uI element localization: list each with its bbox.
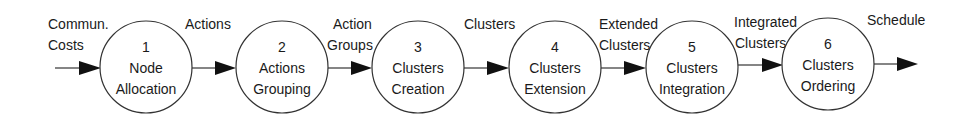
arrowhead-icon (215, 61, 236, 75)
edge-action-groups: Action Groups (327, 16, 373, 75)
arrowhead-icon (351, 61, 372, 75)
node-number: 3 (414, 39, 422, 55)
node-title-line2: Creation (392, 81, 445, 97)
node-number: 4 (551, 39, 559, 55)
node-1-node-allocation: 1 Node Allocation (100, 21, 192, 113)
process-flow-diagram: Commun. Costs 1 Node Allocation Actions … (0, 0, 963, 118)
edge-label-line2: Clusters (735, 35, 786, 51)
node-title-line2: Grouping (253, 81, 311, 97)
node-title-line2: Extension (524, 81, 585, 97)
arrowhead-icon (624, 61, 646, 75)
node-title-line1: Actions (259, 60, 305, 76)
node-4-clusters-extension: 4 Clusters Extension (509, 21, 601, 113)
node-number: 1 (142, 39, 150, 55)
node-title-line1: Clusters (529, 60, 580, 76)
arrowhead-icon (487, 61, 509, 75)
edge-label-line1: Clusters (464, 16, 515, 32)
edge-label-line2: Clusters (599, 37, 650, 53)
edge-label-line2: Groups (327, 37, 373, 53)
node-title-line2: Ordering (801, 78, 855, 94)
edge-label-line1: Action (333, 16, 372, 32)
node-number: 6 (824, 36, 832, 52)
node-2-actions-grouping: 2 Actions Grouping (236, 21, 328, 113)
edge-schedule: Schedule (867, 12, 926, 71)
node-6-clusters-ordering: 6 Clusters Ordering (782, 18, 874, 110)
edge-label-line1: Commun. (48, 16, 109, 32)
arrowhead-icon (79, 61, 101, 75)
edge-actions: Actions (185, 16, 236, 75)
node-number: 5 (688, 39, 696, 55)
edge-label-line1: Actions (185, 16, 231, 32)
arrowhead-icon (897, 57, 918, 71)
node-title-line1: Clusters (392, 60, 443, 76)
edge-label-line2: Costs (48, 37, 84, 53)
edge-label-line1: Extended (599, 16, 658, 32)
node-title-line2: Allocation (116, 81, 177, 97)
edge-label-line1: Integrated (734, 14, 797, 30)
node-number: 2 (278, 39, 286, 55)
edge-label-line1: Schedule (867, 12, 926, 28)
node-title-line2: Integration (659, 81, 725, 97)
node-title-line1: Clusters (802, 57, 853, 73)
node-5-clusters-integration: 5 Clusters Integration (646, 21, 738, 113)
node-3-clusters-creation: 3 Clusters Creation (372, 21, 464, 113)
edge-clusters: Clusters (464, 16, 515, 75)
node-title-line1: Node (129, 60, 163, 76)
arrowhead-icon (762, 58, 783, 72)
node-title-line1: Clusters (666, 60, 717, 76)
